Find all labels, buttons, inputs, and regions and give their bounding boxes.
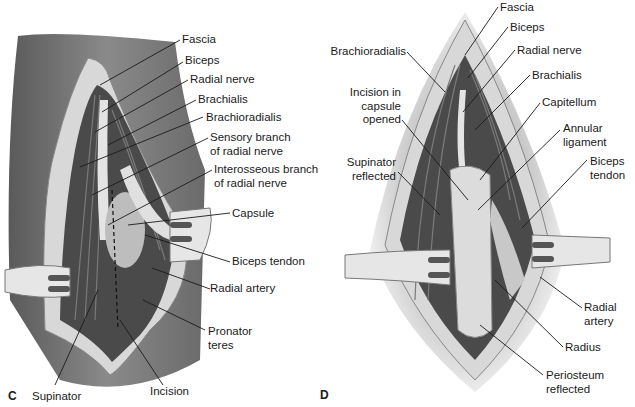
label-biceps-tendon: Biceps tendon — [232, 255, 305, 269]
label-sensory-branch: Sensory branch of radial nerve — [210, 131, 291, 158]
label-incision-line3: opened — [316, 113, 401, 127]
label-biceps-tendon-line1: Biceps — [590, 155, 625, 169]
label-radius: Radius — [565, 341, 601, 355]
label-incision: Incision — [150, 385, 189, 399]
label-brachialis: Brachialis — [198, 93, 248, 107]
label-biceps-tendon-line2: tendon — [590, 169, 625, 183]
label-supinator: Supinator — [32, 390, 81, 404]
label-interosseous-branch: Interosseous branch of radial nerve — [214, 163, 318, 190]
label-supinator-reflected: Supinator reflected — [316, 156, 396, 183]
label-interosseous-line2: of radial nerve — [214, 177, 318, 191]
label-fascia: Fascia — [500, 1, 534, 15]
label-pronator-line2: teres — [208, 339, 252, 353]
label-fascia: Fascia — [182, 33, 216, 47]
label-sensory-line2: of radial nerve — [210, 145, 291, 159]
arm-dissection-c-drawing — [0, 0, 320, 407]
label-incision-line1: Incision in — [316, 86, 401, 100]
label-annular-line2: ligament — [563, 136, 606, 150]
label-incision-line2: capsule — [316, 100, 401, 114]
panel-d-illustration: Fascia Biceps Radial nerve Brachialis Br… — [310, 0, 635, 407]
label-capsule: Capsule — [232, 207, 274, 221]
label-brachialis: Brachialis — [532, 69, 582, 83]
label-radial-artery-line1: Radial — [584, 301, 617, 315]
label-incision-in-capsule: Incision in capsule opened — [316, 86, 401, 127]
label-annular-ligament: Annular ligament — [563, 122, 606, 149]
label-periosteum-line2: reflected — [546, 383, 604, 397]
label-radial-nerve: Radial nerve — [517, 44, 582, 58]
label-pronator-teres: Pronator teres — [208, 325, 252, 352]
label-brachioradialis: Brachioradialis — [318, 45, 406, 59]
label-biceps: Biceps — [185, 54, 220, 68]
label-periosteum-line1: Periosteum — [546, 369, 604, 383]
label-biceps-tendon: Biceps tendon — [590, 155, 625, 182]
label-annular-line1: Annular — [563, 122, 606, 136]
label-brachioradialis: Brachioradialis — [206, 111, 281, 125]
label-sensory-line1: Sensory branch — [210, 131, 291, 145]
label-pronator-line1: Pronator — [208, 325, 252, 339]
label-interosseous-line1: Interosseous branch — [214, 163, 318, 177]
label-capitellum: Capitellum — [542, 96, 596, 110]
label-radial-artery: Radial artery — [584, 301, 617, 328]
label-periosteum-reflected: Periosteum reflected — [546, 369, 604, 396]
panel-c-illustration: Fascia Biceps Radial nerve Brachialis Br… — [0, 0, 320, 407]
label-supinator-line1: Supinator — [316, 156, 396, 170]
label-radial-artery: Radial artery — [210, 282, 275, 296]
panel-letter-c: C — [8, 389, 17, 403]
label-biceps: Biceps — [510, 21, 545, 35]
label-radial-artery-line2: artery — [584, 315, 617, 329]
panel-letter-d: D — [320, 388, 329, 402]
label-radial-nerve: Radial nerve — [190, 73, 255, 87]
label-supinator-line2: reflected — [316, 170, 396, 184]
